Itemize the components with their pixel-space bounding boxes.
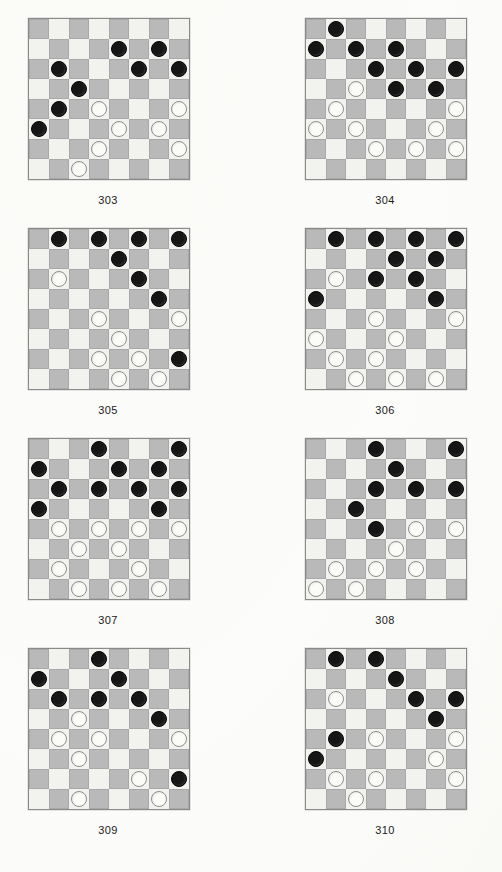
board-square-dark[interactable] [366, 159, 386, 179]
board-square-light[interactable] [89, 729, 109, 749]
white-piece[interactable] [71, 791, 87, 807]
board-square-light[interactable] [406, 519, 426, 539]
board-square-dark[interactable] [326, 329, 346, 349]
white-piece[interactable] [448, 771, 464, 787]
board-square-dark[interactable] [306, 769, 326, 789]
board-square-dark[interactable] [326, 749, 346, 769]
board-square-dark[interactable] [386, 559, 406, 579]
board-square-light[interactable] [109, 539, 129, 559]
black-piece[interactable] [111, 671, 127, 687]
board-square-dark[interactable] [406, 159, 426, 179]
board-square-light[interactable] [426, 709, 446, 729]
board-square-light[interactable] [426, 499, 446, 519]
board-square-dark[interactable] [406, 709, 426, 729]
board-square-light[interactable] [49, 99, 69, 119]
board-square-light[interactable] [426, 289, 446, 309]
board-square-light[interactable] [169, 769, 189, 789]
board-square-light[interactable] [366, 689, 386, 709]
board-square-dark[interactable] [149, 729, 169, 749]
board-square-light[interactable] [306, 39, 326, 59]
board-square-dark[interactable] [306, 689, 326, 709]
black-piece[interactable] [408, 691, 424, 707]
board-square-dark[interactable] [406, 579, 426, 599]
board-square-light[interactable] [109, 749, 129, 769]
board-square-light[interactable] [169, 439, 189, 459]
board-square-light[interactable] [29, 119, 49, 139]
board-square-light[interactable] [406, 309, 426, 329]
board-square-light[interactable] [29, 749, 49, 769]
board-square-dark[interactable] [29, 269, 49, 289]
board-square-light[interactable] [169, 479, 189, 499]
board-square-dark[interactable] [169, 369, 189, 389]
board-square-dark[interactable] [69, 269, 89, 289]
board-square-light[interactable] [89, 479, 109, 499]
board-square-dark[interactable] [49, 709, 69, 729]
board-square-dark[interactable] [69, 139, 89, 159]
black-piece[interactable] [408, 231, 424, 247]
board-square-dark[interactable] [346, 649, 366, 669]
board-square-dark[interactable] [169, 289, 189, 309]
board-square-dark[interactable] [306, 139, 326, 159]
white-piece[interactable] [368, 731, 384, 747]
board-square-light[interactable] [129, 269, 149, 289]
board-square-dark[interactable] [386, 439, 406, 459]
board-square-dark[interactable] [366, 459, 386, 479]
board-square-dark[interactable] [386, 519, 406, 539]
board-square-dark[interactable] [49, 539, 69, 559]
board-square-light[interactable] [306, 789, 326, 809]
checkers-board[interactable] [305, 228, 467, 390]
board-square-dark[interactable] [169, 749, 189, 769]
board-square-dark[interactable] [49, 749, 69, 769]
board-square-dark[interactable] [169, 159, 189, 179]
black-piece[interactable] [91, 231, 107, 247]
board-square-light[interactable] [29, 289, 49, 309]
white-piece[interactable] [51, 561, 67, 577]
black-piece[interactable] [388, 461, 404, 477]
white-piece[interactable] [151, 581, 167, 597]
board-square-light[interactable] [149, 709, 169, 729]
board-square-light[interactable] [149, 369, 169, 389]
white-piece[interactable] [71, 751, 87, 767]
board-square-light[interactable] [366, 349, 386, 369]
board-square-light[interactable] [446, 519, 466, 539]
board-square-dark[interactable] [129, 539, 149, 559]
black-piece[interactable] [51, 481, 67, 497]
board-square-dark[interactable] [446, 329, 466, 349]
board-square-light[interactable] [306, 289, 326, 309]
board-square-light[interactable] [129, 479, 149, 499]
board-square-dark[interactable] [129, 669, 149, 689]
board-square-dark[interactable] [366, 289, 386, 309]
black-piece[interactable] [111, 251, 127, 267]
white-piece[interactable] [328, 351, 344, 367]
white-piece[interactable] [328, 271, 344, 287]
board-square-dark[interactable] [406, 459, 426, 479]
board-square-light[interactable] [69, 39, 89, 59]
board-square-light[interactable] [326, 229, 346, 249]
board-square-dark[interactable] [426, 309, 446, 329]
board-square-light[interactable] [69, 369, 89, 389]
white-piece[interactable] [111, 331, 127, 347]
board-square-dark[interactable] [406, 499, 426, 519]
white-piece[interactable] [71, 581, 87, 597]
board-square-light[interactable] [326, 309, 346, 329]
board-square-dark[interactable] [326, 39, 346, 59]
board-square-dark[interactable] [366, 119, 386, 139]
board-square-dark[interactable] [426, 439, 446, 459]
board-square-light[interactable] [109, 669, 129, 689]
white-piece[interactable] [448, 311, 464, 327]
board-square-dark[interactable] [326, 79, 346, 99]
board-square-light[interactable] [426, 159, 446, 179]
board-square-dark[interactable] [49, 669, 69, 689]
white-piece[interactable] [171, 731, 187, 747]
board-square-light[interactable] [386, 709, 406, 729]
black-piece[interactable] [428, 251, 444, 267]
board-square-light[interactable] [446, 769, 466, 789]
white-piece[interactable] [428, 121, 444, 137]
board-square-light[interactable] [29, 789, 49, 809]
board-square-dark[interactable] [169, 459, 189, 479]
board-square-dark[interactable] [386, 309, 406, 329]
board-square-dark[interactable] [149, 59, 169, 79]
black-piece[interactable] [151, 291, 167, 307]
white-piece[interactable] [151, 791, 167, 807]
board-square-light[interactable] [69, 789, 89, 809]
